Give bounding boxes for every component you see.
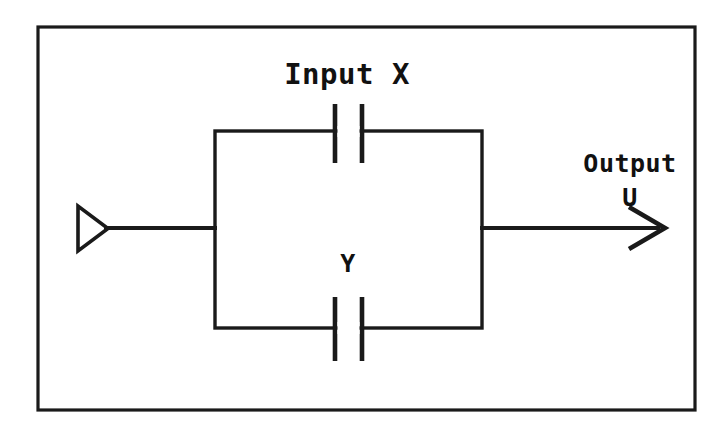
label-input-x: Input X: [284, 57, 410, 91]
label-output-symbol: U: [622, 183, 638, 212]
contact-x-gap: [338, 126, 360, 137]
label-output: Output: [583, 149, 676, 178]
label-contact-y: Y: [340, 249, 356, 278]
figure-root: Input X Y Output U: [0, 0, 724, 435]
contact-y-gap: [338, 322, 360, 334]
circuit-diagram-canvas: Input X Y Output U: [0, 0, 724, 435]
